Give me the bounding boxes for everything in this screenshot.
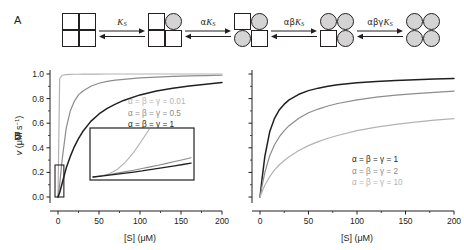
ligand-bound-subunit	[165, 13, 182, 30]
state-3-ligands	[320, 13, 354, 47]
ligand-bound-subunit	[406, 30, 423, 47]
state-0-ligands	[62, 13, 96, 47]
ligand-bound-subunit	[251, 13, 268, 30]
x-axis-label: [S] (μM)	[341, 233, 373, 243]
ligand-bound-subunit	[423, 30, 440, 47]
x-tick-label: 100	[350, 216, 364, 226]
x-tick-label: 100	[133, 216, 147, 226]
y-tick-label: 0.6	[32, 118, 44, 128]
legend-item-3: α = β = γ = 10	[352, 178, 403, 187]
panel-b-chart: B 0.00.20.40.60.81.0050100150200[S] (μM)…	[0, 62, 232, 250]
panel-b-letter: B	[14, 130, 21, 142]
ligand-bound-subunit	[337, 13, 354, 30]
free-subunit	[320, 30, 337, 47]
panelB-svg: 0.00.20.40.60.81.0050100150200[S] (μM)v …	[0, 62, 232, 250]
panel-a-letter: A	[14, 14, 21, 26]
y-tick-label: 0.8	[32, 94, 44, 104]
legend-item-1: α = β = γ = 1	[352, 155, 399, 164]
ligand-bound-subunit	[234, 30, 251, 47]
ligand-bound-subunit	[406, 13, 423, 30]
x-tick-label: 0	[56, 216, 61, 226]
x-tick-label: 200	[215, 216, 229, 226]
x-tick-label: 200	[447, 216, 461, 226]
equilibrium-arrows-1: KS	[98, 19, 146, 43]
ligand-bound-subunit	[320, 13, 337, 30]
x-tick-label: 150	[398, 216, 412, 226]
free-subunit	[148, 30, 165, 47]
y-tick-label: 0.0	[32, 192, 44, 202]
equilibrium-arrows-3: αβKS	[270, 19, 318, 43]
y-tick-label: 1.0	[32, 69, 44, 79]
panelC-svg: 050100150200[S] (μM)α = β = γ = 1α = β =…	[232, 62, 464, 250]
inset-frame	[90, 128, 194, 180]
y-tick-label: 0.2	[32, 167, 44, 177]
panel-a-scheme: A KSαKSαβKSαβγKS	[0, 0, 464, 62]
free-subunit	[62, 13, 79, 30]
ligand-bound-subunit	[337, 30, 354, 47]
free-subunit	[165, 30, 182, 47]
legend-item-2: α = β = γ = 0.5	[128, 109, 181, 118]
x-tick-label: 50	[304, 216, 314, 226]
free-subunit	[251, 30, 268, 47]
equilibrium-arrows-2: αKS	[184, 19, 232, 43]
state-2-ligands	[234, 13, 268, 47]
x-axis-label: [S] (μM)	[124, 233, 156, 243]
state-1-ligand	[148, 13, 182, 47]
panel-c-chart: C 050100150200[S] (μM)α = β = γ = 1α = β…	[232, 62, 464, 250]
free-subunit	[234, 13, 251, 30]
free-subunit	[62, 30, 79, 47]
x-tick-label: 150	[174, 216, 188, 226]
free-subunit	[148, 13, 165, 30]
state-4-ligands	[406, 13, 440, 47]
legend-item-2: α = β = γ = 2	[352, 167, 399, 176]
x-tick-label: 0	[258, 216, 263, 226]
free-subunit	[79, 13, 96, 30]
legend-item-1: α = β = γ = 0.01	[128, 97, 186, 106]
equilibrium-arrows-4: αβγKS	[356, 19, 404, 43]
free-subunit	[79, 30, 96, 47]
y-tick-label: 0.4	[32, 143, 44, 153]
ligand-bound-subunit	[423, 13, 440, 30]
x-tick-label: 50	[94, 216, 104, 226]
